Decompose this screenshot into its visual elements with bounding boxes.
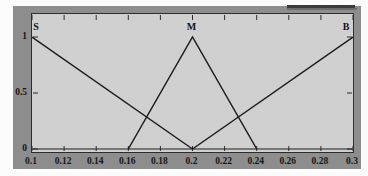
series-line-S xyxy=(32,37,193,149)
y-tick-label: 1 xyxy=(2,31,27,41)
series-label-M: M xyxy=(187,22,196,32)
x-tick-label: 0.24 xyxy=(247,156,264,166)
scan-artifact-bar-secondary xyxy=(287,8,357,10)
x-tick-label: 0.1 xyxy=(25,156,37,166)
x-tick-label: 0.16 xyxy=(119,156,136,166)
x-tick-label: 0.28 xyxy=(312,156,329,166)
series-lines-group xyxy=(32,37,353,149)
y-tick-label: 0 xyxy=(2,143,27,153)
plot-area xyxy=(31,13,354,153)
series-label-B: B xyxy=(343,22,350,32)
membership-functions-svg xyxy=(32,14,353,152)
figure: 0.10.120.140.160.180.20.220.240.260.280.… xyxy=(0,0,368,176)
x-tick-label: 0.18 xyxy=(151,156,168,166)
tick-marks-group xyxy=(32,15,353,151)
series-line-B xyxy=(193,37,354,149)
series-label-S: S xyxy=(33,22,39,32)
y-tick-label: 0.5 xyxy=(2,87,27,97)
x-tick-label: 0.12 xyxy=(55,156,72,166)
x-tick-label: 0.2 xyxy=(186,156,198,166)
x-tick-label: 0.14 xyxy=(87,156,104,166)
series-line-M xyxy=(128,37,256,149)
x-tick-label: 0.22 xyxy=(215,156,232,166)
x-tick-label: 0.26 xyxy=(279,156,296,166)
x-tick-label: 0.3 xyxy=(346,156,358,166)
